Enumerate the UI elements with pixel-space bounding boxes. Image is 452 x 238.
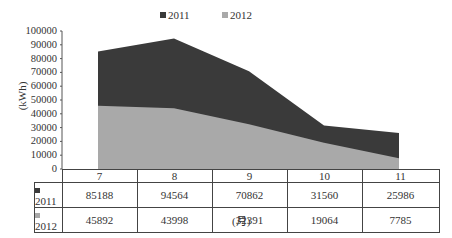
table-header-cell: 9 (212, 170, 287, 183)
table-cell: 31560 (287, 183, 362, 208)
table-header-cell: 8 (137, 170, 212, 183)
table-cell: 43998 (137, 208, 212, 233)
table-row: 2011 85188 94564 70862 31560 25986 (35, 183, 440, 208)
table-header-cell: 10 (287, 170, 362, 183)
table-cell: 25986 (362, 183, 439, 208)
table-header-cell: 7 (62, 170, 137, 183)
x-axis-label: (月) (232, 212, 250, 228)
row-label-2011: 2011 (35, 183, 63, 208)
table-cell: 7785 (362, 208, 439, 233)
row-label-2012: 2012 (35, 208, 63, 233)
table-cell: 70862 (212, 183, 287, 208)
table-cell: 45892 (62, 208, 137, 233)
table-cell: 19064 (287, 208, 362, 233)
table-cell: 85188 (62, 183, 137, 208)
table-header-row: 7 8 9 10 11 (35, 170, 440, 183)
table-cell: 94564 (137, 183, 212, 208)
table-header-cell: 11 (362, 170, 439, 183)
